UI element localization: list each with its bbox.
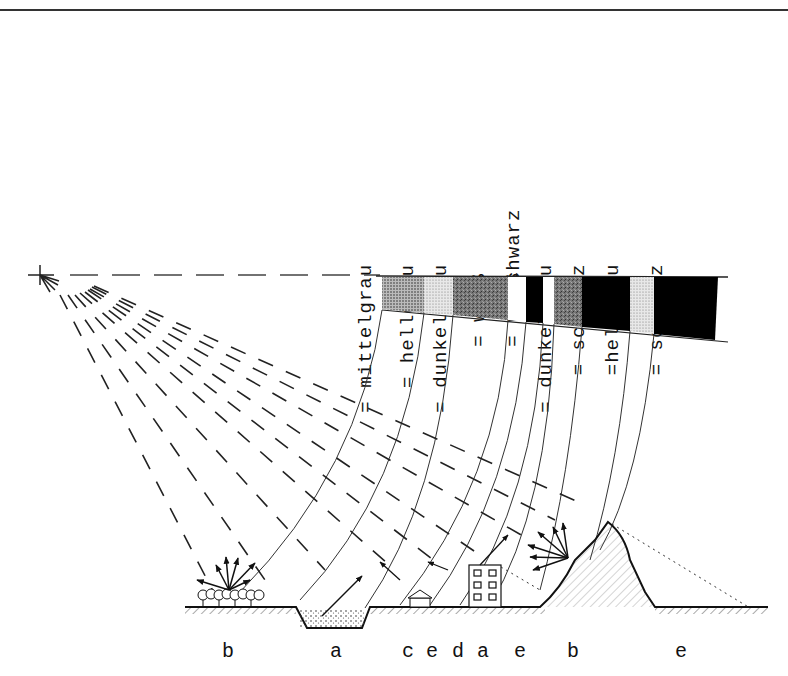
rocky-hill [545,522,655,607]
scan-rays [60,286,585,595]
scatter-arrows-hill [528,523,568,570]
reflection-arrow-house [428,562,448,570]
small-house [408,590,432,607]
ground-label-b2: b [567,640,579,663]
water-pond [300,609,365,627]
reflection-arrow-a [380,562,400,580]
ground-label-c: c [402,640,414,663]
ground-label-d: d [452,640,464,663]
scanner-diagram [0,0,788,676]
reflection-arrow-building [480,535,508,565]
image-stripe-bar [376,276,728,342]
sensor-crosshair-icon [28,265,59,292]
ground-label-e2: e [514,640,526,663]
apartment-building [469,565,501,607]
ground-label-b1: b [222,640,234,663]
ground-label-a1: a [330,640,342,663]
ground-label-e1: e [426,640,438,663]
ground-label-e3: e [675,640,687,663]
trees [198,589,264,607]
ground-label-a2: a [477,640,489,663]
shadow-line-building [501,567,540,590]
